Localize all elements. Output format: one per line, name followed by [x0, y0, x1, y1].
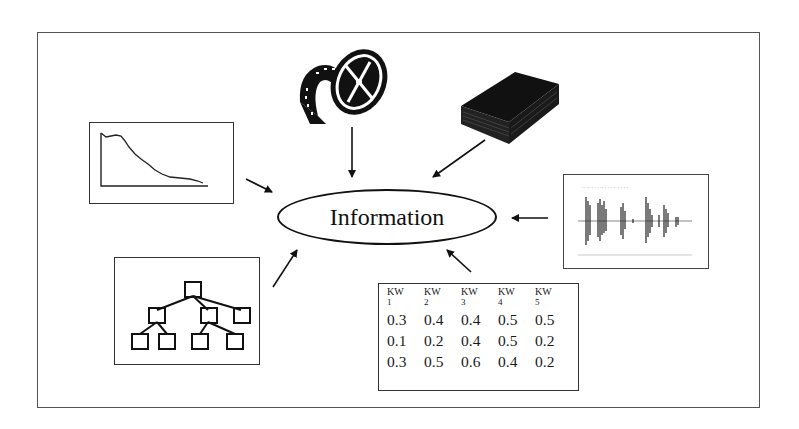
table-cell: 0.3 [387, 309, 424, 330]
header-cell: KW [498, 287, 535, 297]
table-cell: 0.5 [424, 351, 461, 372]
arrow-from-table [447, 250, 471, 272]
table-cell: 0.6 [461, 351, 498, 372]
header-index: 4 [498, 297, 535, 308]
arrow-from-chart [246, 179, 272, 192]
table-cell: 0.4 [461, 330, 498, 351]
table-cell: 0.5 [498, 309, 535, 330]
table-cell: 0.4 [498, 351, 535, 372]
table-cell: 0.5 [498, 330, 535, 351]
header-cell: KW [387, 287, 424, 297]
table-row: 0.1 0.2 0.4 0.5 0.2 [387, 330, 578, 351]
header-index: 3 [461, 297, 498, 308]
header-cell: KW [535, 287, 572, 297]
table-cell: 0.4 [424, 309, 461, 330]
table-cell: 0.5 [535, 309, 572, 330]
table-row: 0.3 0.5 0.6 0.4 0.2 [387, 351, 578, 372]
arrow-from-tree [273, 250, 297, 287]
table-cell: 0.2 [535, 351, 572, 372]
table-cell: 0.1 [387, 330, 424, 351]
keyword-table: KW1 KW2 KW3 KW4 KW5 0.3 0.4 0.4 0.5 0.5 … [378, 283, 579, 391]
header-index: 1 [387, 297, 424, 308]
table-cell: 0.2 [424, 330, 461, 351]
table-row: 0.3 0.4 0.4 0.5 0.5 [387, 309, 578, 330]
arrow-from-book [433, 140, 485, 177]
header-cell: KW [461, 287, 498, 297]
header-cell: KW [424, 287, 461, 297]
table-cell: 0.3 [387, 351, 424, 372]
information-node: Information [277, 189, 497, 245]
table-cell: 0.2 [535, 330, 572, 351]
header-index: 2 [424, 297, 461, 308]
header-index: 5 [535, 297, 572, 308]
information-label: Information [330, 204, 445, 231]
keyword-table-header: KW1 KW2 KW3 KW4 KW5 [387, 287, 578, 309]
table-cell: 0.4 [461, 309, 498, 330]
